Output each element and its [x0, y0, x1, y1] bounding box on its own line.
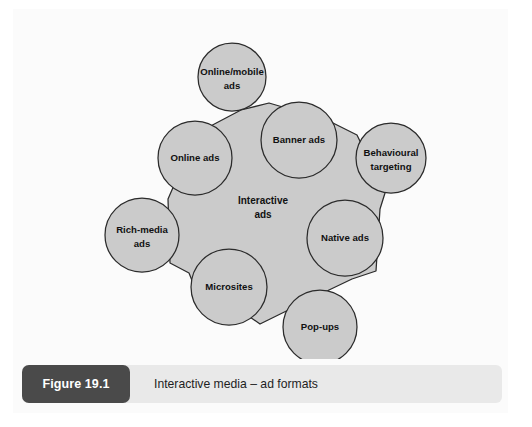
node-native-ads[interactable]: Native ads: [307, 200, 383, 276]
node-pop-ups[interactable]: Pop-ups: [283, 290, 357, 359]
center-label-line2: ads: [254, 209, 272, 220]
node-label-banner-ads-line1: Banner ads: [273, 134, 325, 145]
node-label-online-mobile-ads-line1: Online/mobile: [200, 66, 263, 77]
figure-number-badge: Figure 19.1: [22, 365, 130, 403]
node-label-rich-media-ads-line1: Rich-media: [116, 224, 168, 235]
diagram-canvas: Interactive ads Online/mobile ads Banner…: [13, 9, 508, 359]
node-behavioural-targeting[interactable]: Behavioural targeting: [356, 123, 426, 193]
node-label-native-ads-line1: Native ads: [321, 232, 369, 243]
node-label-microsites-line1: Microsites: [205, 281, 252, 292]
interactive-ads-diagram: Interactive ads Online/mobile ads Banner…: [13, 9, 508, 359]
node-microsites[interactable]: Microsites: [191, 249, 267, 325]
node-circle-behavioural-targeting[interactable]: [356, 123, 426, 193]
figure-caption-text: Interactive media – ad formats: [154, 365, 318, 403]
node-label-behavioural-targeting-line1: Behavioural: [364, 147, 419, 158]
node-label-online-mobile-ads-line2: ads: [224, 80, 241, 91]
node-rich-media-ads[interactable]: Rich-media ads: [105, 198, 179, 272]
node-label-rich-media-ads-line2: ads: [134, 238, 151, 249]
node-circle-online-mobile-ads[interactable]: [198, 43, 266, 111]
node-online-mobile-ads[interactable]: Online/mobile ads: [198, 43, 266, 111]
node-label-pop-ups-line1: Pop-ups: [301, 321, 339, 332]
node-circle-rich-media-ads[interactable]: [105, 198, 179, 272]
center-label-line1: Interactive: [238, 195, 288, 206]
figure-card: Interactive ads Online/mobile ads Banner…: [13, 9, 508, 413]
node-label-behavioural-targeting-line2: targeting: [370, 161, 411, 172]
node-online-ads[interactable]: Online ads: [158, 121, 232, 195]
figure-caption-bar: Figure 19.1 Interactive media – ad forma…: [22, 365, 502, 403]
node-banner-ads[interactable]: Banner ads: [261, 102, 337, 178]
node-label-online-ads-line1: Online ads: [170, 152, 219, 163]
